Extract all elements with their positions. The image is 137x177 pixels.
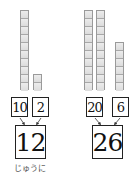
arrow-right-tens bbox=[95, 118, 100, 124]
arrow-left-ones bbox=[37, 118, 41, 124]
arrow-right-ones bbox=[115, 118, 120, 124]
arrows bbox=[0, 0, 137, 177]
arrow-left-tens bbox=[20, 118, 24, 124]
